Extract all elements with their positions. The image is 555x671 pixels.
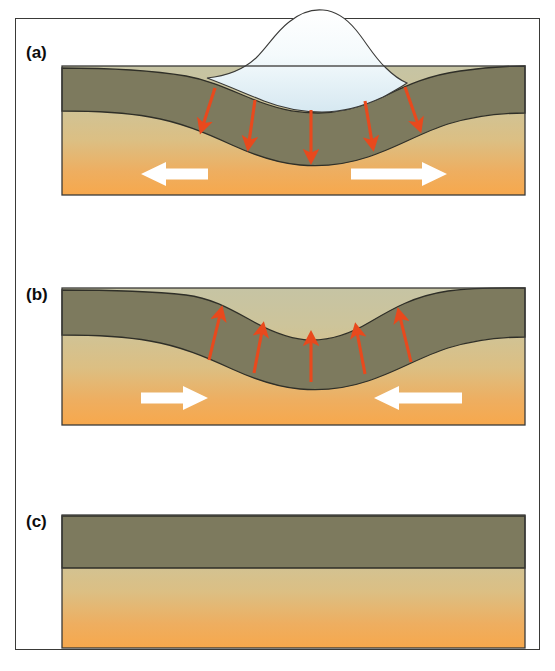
panel-letter-c: (c) xyxy=(26,512,47,532)
panel-letter-a: (a) xyxy=(26,43,47,63)
isostasy-figure: (a) (b) (c) Crust Glacial ice Mantle mov… xyxy=(0,0,555,671)
glacial-ice-label: Glacial ice xyxy=(264,55,333,72)
crust-label-c: Crust xyxy=(72,534,108,551)
crust-label-a: Crust xyxy=(72,80,108,97)
crust-label-b: Crust xyxy=(72,305,108,322)
figure-frame xyxy=(15,18,540,650)
panel-letter-b: (b) xyxy=(26,285,48,305)
mantle-movement-label-b: Mantle movement xyxy=(214,389,333,406)
mantle-movement-label-a: Mantle movement xyxy=(214,165,333,182)
